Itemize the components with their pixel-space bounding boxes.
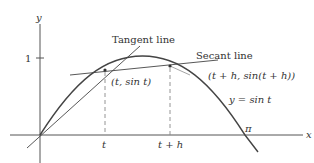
point-t [103, 68, 106, 71]
secant-extension [170, 66, 190, 75]
secant-line [70, 60, 218, 75]
point-t-plus-h [168, 64, 171, 67]
x-tick-label-t-plus-h: t + h [158, 139, 183, 150]
secant-line-label: Secant line [196, 50, 253, 61]
x-tick-label-pi: π [244, 123, 252, 134]
tangent-line-label: Tangent line [112, 34, 175, 45]
y-axis-label: y [35, 12, 42, 23]
point-t-plus-h-label: (t + h, sin(t + h)) [208, 70, 295, 81]
point-t-label: (t, sin t) [111, 76, 151, 87]
curve-label: y = sin t [228, 94, 272, 105]
x-axis-label: x [306, 129, 312, 140]
tangent-line [27, 46, 140, 148]
x-tick-label-t: t [102, 139, 107, 150]
y-tick-label-1: 1 [25, 53, 31, 64]
sine-secant-tangent-diagram: y x 1 Tangent line Secant line (t, sin t… [0, 0, 314, 163]
